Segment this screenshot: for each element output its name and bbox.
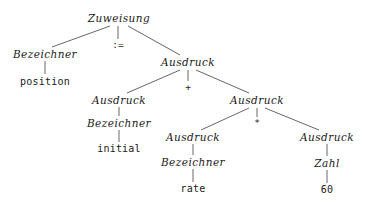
tree-edges-layer	[0, 0, 365, 205]
tree-node-nonterminal: Ausdruck	[300, 132, 354, 143]
tree-edge	[127, 70, 180, 93]
tree-node-nonterminal: Bezeichner	[87, 118, 151, 129]
tree-node-operator: +	[185, 82, 191, 92]
tree-node-terminal: initial	[97, 144, 141, 154]
parse-tree-diagram: ZuweisungBezeichner:=AusdruckpositionAus…	[0, 0, 365, 205]
tree-node-nonterminal: Ausdruck	[92, 95, 146, 106]
tree-node-nonterminal: Ausdruck	[166, 132, 220, 143]
tree-node-terminal: 60	[321, 185, 333, 195]
tree-edge	[128, 26, 180, 55]
tree-node-nonterminal: Zuweisung	[88, 13, 150, 24]
tree-node-nonterminal: Ausdruck	[230, 95, 284, 106]
tree-node-operator: :=	[112, 40, 123, 50]
tree-node-terminal: rate	[181, 184, 206, 194]
tree-node-terminal: position	[20, 77, 70, 87]
tree-node-operator: *	[254, 118, 260, 128]
tree-edge	[265, 108, 319, 130]
tree-node-nonterminal: Ausdruck	[161, 57, 215, 68]
tree-edge	[196, 70, 249, 93]
tree-edge	[52, 26, 110, 47]
tree-node-nonterminal: Bezeichner	[13, 49, 77, 60]
tree-edge	[201, 108, 249, 130]
tree-node-nonterminal: Zahl	[314, 158, 339, 169]
tree-node-nonterminal: Bezeichner	[161, 157, 225, 168]
